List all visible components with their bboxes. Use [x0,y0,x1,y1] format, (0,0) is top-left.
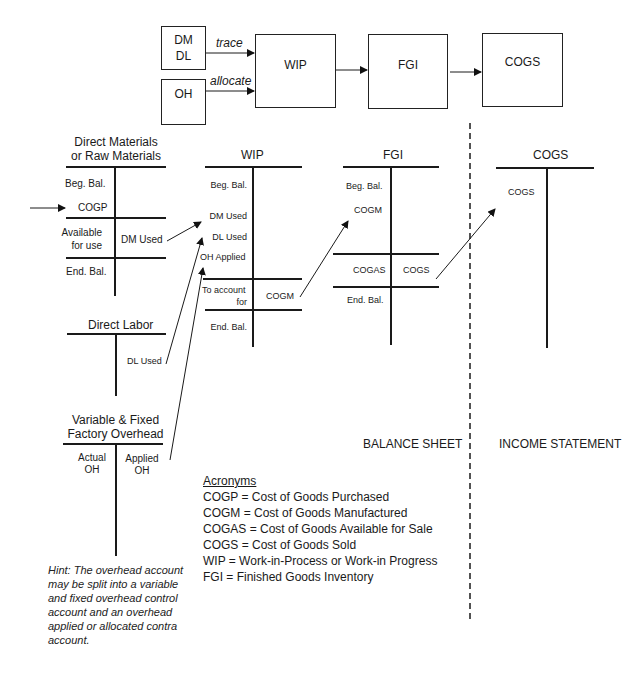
acronym-item: COGAS = Cost of Goods Available for Sale [203,521,437,537]
trace-label: trace [216,36,243,50]
oh-actual-line2: OH [74,464,110,476]
dl-used-credit: DL Used [127,356,162,367]
dm-end-bal: End. Bal. [66,266,107,278]
wip-for: for [195,297,247,308]
wip-box-label: WIP [284,57,307,73]
cogs-box-label: COGS [505,54,540,70]
cogm-arrow [300,221,348,297]
cogs-debit: COGS [508,187,535,198]
wip-account-title: WIP [241,148,264,162]
dm-available: Available [50,227,102,239]
fgi-account-title: FGI [383,148,403,162]
acronyms-heading: Acronyms [203,473,437,489]
acronym-item: COGM = Cost of Goods Manufactured [203,505,437,521]
hint-note: Hint: The overhead account may be split … [48,563,198,647]
wip-dl-used: DL Used [195,232,247,243]
fgi-end-bal: End. Bal. [347,295,384,306]
acronym-item: FGI = Finished Goods Inventory [203,569,437,585]
wip-beg-bal: Beg. Bal. [195,180,247,191]
acronyms-legend: Acronyms COGP = Cost of Goods Purchased … [203,473,437,585]
income-statement-label: INCOME STATEMENT [499,437,621,451]
wip-end-bal: End. Bal. [195,322,247,333]
wip-to-account: To account [202,285,246,296]
cogs-box: COGS [482,33,563,107]
oh-title-line1: Variable & Fixed [43,413,188,427]
fgi-beg-bal: Beg. Bal. [346,181,383,192]
dm-title-line2: or Raw Materials [46,149,186,163]
cost-flow-diagram: DM DL OH trace allocate WIP FGI COGS Dir… [0,0,640,675]
oh-applied-line1: Applied [122,453,162,465]
oh-applied-line2: OH [122,465,162,477]
oh-applied: Applied OH [122,453,162,477]
oh-label: OH [175,86,193,102]
balance-sheet-label: BALANCE SHEET [363,437,462,451]
wip-dm-used: DM Used [195,211,247,222]
dm-cogp: COGP [78,202,107,214]
wip-box: WIP [255,34,336,108]
fgi-t-account-lines [333,167,439,345]
oh-account-title: Variable & Fixed Factory Overhead [43,413,188,442]
fgi-cogs-credit: COGS [403,265,430,276]
dm-used-credit: DM Used [121,234,163,246]
fgi-box: FGI [368,34,448,109]
oh-actual: Actual OH [74,452,110,476]
dm-for-use: for use [50,240,102,252]
cogs-account-title: COGS [533,148,568,162]
dl-account-title: Direct Labor [88,318,153,332]
acronym-item: COGS = Cost of Goods Sold [203,537,437,553]
dm-title-line1: Direct Materials [46,135,186,149]
wip-oh-applied: OH Applied [200,252,246,263]
oh-box: OH [161,79,206,125]
acronym-item: COGP = Cost of Goods Purchased [203,489,437,505]
acronym-item: WIP = Work-in-Process or Work-in Progres… [203,553,437,569]
fgi-box-label: FGI [398,57,418,73]
oh-actual-line1: Actual [74,452,110,464]
allocate-label: allocate [210,74,251,88]
dl-label: DL [174,48,193,64]
oh-title-line2: Factory Overhead [43,427,188,441]
cogs-arrow [436,209,495,279]
dm-beg-bal: Beg. Bal. [65,178,106,190]
dm-dl-box: DM DL [161,26,206,70]
dm-account-title: Direct Materials or Raw Materials [46,135,186,164]
dm-label: DM [174,32,193,48]
fgi-cogm: COGM [354,205,382,216]
fgi-cogas: COGAS [353,265,386,276]
wip-cogm-credit: COGM [266,291,294,302]
